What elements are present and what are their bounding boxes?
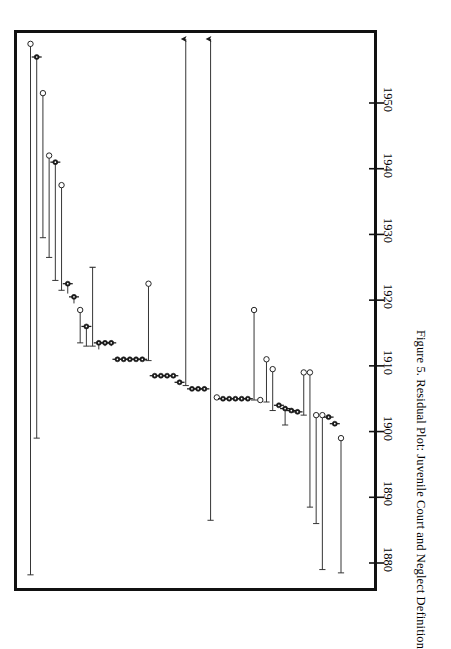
marker-highlight	[73, 296, 75, 298]
marker-highlight	[284, 408, 286, 410]
marker-open-circle	[251, 307, 256, 312]
marker-highlight	[191, 388, 193, 390]
marker-highlight	[166, 375, 168, 377]
axis-tick-label: 1890	[380, 481, 395, 506]
marker-open-circle	[59, 182, 64, 187]
axis-tick-label: 1930	[380, 218, 395, 243]
marker-open-circle	[307, 370, 312, 375]
marker-highlight	[197, 388, 199, 390]
marker-highlight	[36, 56, 38, 58]
marker-highlight	[98, 342, 100, 344]
marker-open-circle	[338, 435, 343, 440]
marker-highlight	[123, 358, 125, 360]
marker-open-circle	[77, 307, 82, 312]
marker-highlight	[334, 423, 336, 425]
marker-highlight	[160, 375, 162, 377]
marker-highlight	[86, 326, 88, 328]
marker-highlight	[154, 375, 156, 377]
marker-highlight	[172, 375, 174, 377]
marker-highlight	[204, 388, 206, 390]
marker-open-circle	[301, 370, 306, 375]
marker-highlight	[228, 398, 230, 400]
marker-highlight	[141, 358, 143, 360]
marker-highlight	[222, 398, 224, 400]
marker-highlight	[297, 411, 299, 413]
marker-open-circle	[258, 397, 263, 402]
marker-highlight	[328, 416, 330, 418]
residual-series	[27, 39, 384, 575]
axis-tick-label: 1920	[380, 284, 395, 309]
marker-open-circle	[270, 366, 275, 371]
figure-caption: Figure 5. Residual Plot: Juvenile Court …	[413, 330, 428, 649]
marker-highlight	[278, 404, 280, 406]
axis-tick-label: 1940	[380, 153, 395, 178]
axis-tick-label: 1910	[380, 350, 395, 375]
axis-tick-label: 1950	[380, 87, 395, 112]
marker-highlight	[290, 410, 292, 412]
marker-highlight	[179, 381, 181, 383]
marker-highlight	[135, 358, 137, 360]
marker-open-circle	[40, 90, 45, 95]
marker-highlight	[104, 342, 106, 344]
marker-highlight	[110, 342, 112, 344]
marker-highlight	[117, 358, 119, 360]
marker-highlight	[247, 398, 249, 400]
marker-highlight	[67, 283, 69, 285]
marker-highlight	[54, 161, 56, 163]
axis-tick-label: 1900	[380, 416, 395, 441]
marker-highlight	[241, 398, 243, 400]
marker-open-circle	[146, 281, 151, 286]
marker-open-circle	[28, 41, 33, 46]
marker-open-circle	[264, 357, 269, 362]
marker-open-circle	[313, 412, 318, 417]
marker-open-circle	[46, 153, 51, 158]
marker-highlight	[235, 398, 237, 400]
axis-tick-label: 1880	[380, 547, 395, 572]
marker-highlight	[129, 358, 131, 360]
